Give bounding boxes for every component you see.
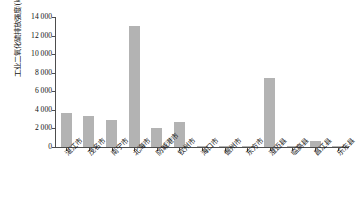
x-axis-tick-labels: 湛江市茂名市南宁市北海市防城港市钦州市海口市儋州市东方市澄迈县临高县昌江县乐东县 (0, 0, 356, 208)
x-axis-tick-label: 茂名市 (87, 137, 108, 158)
x-axis-tick-label: 东方市 (245, 137, 266, 158)
x-axis-tick-label: 海口市 (200, 137, 221, 158)
x-axis-tick-label: 儋州市 (223, 137, 244, 158)
x-axis-tick-label: 临高县 (290, 137, 311, 158)
x-axis-tick-label: 湛江市 (64, 137, 85, 158)
x-axis-tick-label: 防城港市 (155, 132, 180, 157)
x-axis-tick-label: 南宁市 (110, 137, 131, 158)
x-axis-tick-label: 澄迈县 (268, 137, 289, 158)
x-axis-tick-label: 昌江县 (313, 137, 334, 158)
x-axis-tick-label: 乐东县 (336, 137, 356, 158)
x-axis-tick-label: 北海市 (132, 137, 153, 158)
chart-figure: 工业二氧化硫排放强度/(kg/km2) 14 00012 00010 0008 … (0, 0, 356, 208)
x-axis-tick-label: 钦州市 (177, 137, 198, 158)
